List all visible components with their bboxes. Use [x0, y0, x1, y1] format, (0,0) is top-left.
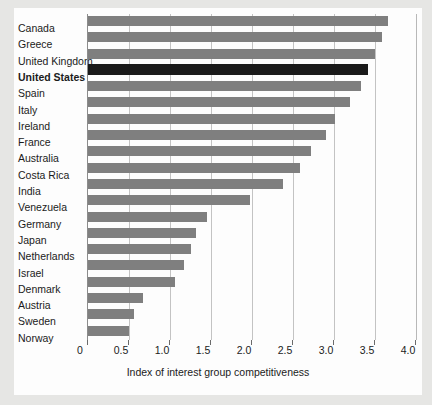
chart-figure: CanadaGreeceUnited KingdomUnited StatesS… [0, 0, 432, 405]
x-tick-label: 1.5 [196, 344, 211, 356]
category-label: Italy [14, 104, 80, 120]
category-label: United States [14, 71, 80, 87]
bar-row [88, 14, 416, 30]
category-label: India [14, 185, 80, 201]
bar [88, 146, 311, 156]
bar-row [88, 226, 416, 242]
bar [88, 32, 382, 42]
category-label: Israel [14, 267, 80, 283]
x-tick-mark [87, 340, 88, 345]
bar [88, 163, 300, 173]
bar-row [88, 210, 416, 226]
bar [88, 326, 129, 336]
bar-row [88, 63, 416, 79]
bar-row [88, 242, 416, 258]
x-axis: 00.51.01.52.02.53.03.54.0 [87, 340, 417, 362]
x-tick-label: 0 [77, 344, 83, 356]
chart-card: CanadaGreeceUnited KingdomUnited StatesS… [14, 8, 422, 395]
bar-row [88, 291, 416, 307]
bar [88, 244, 191, 254]
bar [88, 97, 350, 107]
category-label: Venezuela [14, 201, 80, 217]
bar [88, 16, 388, 26]
bar [88, 293, 143, 303]
category-label: Netherlands [14, 250, 80, 266]
bar [88, 228, 196, 238]
bar [88, 130, 326, 140]
category-label: Norway [14, 332, 80, 348]
bar-row [88, 128, 416, 144]
bar-rows [88, 14, 416, 340]
category-label: Costa Rica [14, 169, 80, 185]
x-tick-label: 1.0 [155, 344, 170, 356]
bar [88, 277, 175, 287]
category-label: Denmark [14, 283, 80, 299]
x-tick-label: 3.0 [319, 344, 334, 356]
category-label: Sweden [14, 315, 80, 331]
category-label: Australia [14, 152, 80, 168]
bar [88, 81, 361, 91]
bar [88, 64, 368, 75]
bar-row [88, 258, 416, 274]
category-label: Spain [14, 87, 80, 103]
bar [88, 195, 250, 205]
category-label: Ireland [14, 120, 80, 136]
bar [88, 179, 283, 189]
bar-row [88, 112, 416, 128]
category-axis-labels: CanadaGreeceUnited KingdomUnited StatesS… [14, 22, 84, 348]
x-tick-label: 2.5 [278, 344, 293, 356]
category-label: Canada [14, 22, 80, 38]
bar-row [88, 307, 416, 323]
bar [88, 309, 134, 319]
bar-row [88, 30, 416, 46]
category-label: Japan [14, 234, 80, 250]
category-label: Greece [14, 38, 80, 54]
bar-row [88, 161, 416, 177]
bar-row [88, 95, 416, 111]
bar [88, 49, 375, 59]
bar-row [88, 275, 416, 291]
bar [88, 260, 184, 270]
category-label: France [14, 136, 80, 152]
bar-row [88, 193, 416, 209]
x-tick-label: 3.5 [360, 344, 375, 356]
bar [88, 114, 335, 124]
category-label: Germany [14, 218, 80, 234]
x-tick-label: 4.0 [401, 344, 416, 356]
plot-area [87, 14, 417, 340]
x-tick-label: 0.5 [114, 344, 129, 356]
bar-row [88, 324, 416, 340]
x-axis-title: Index of interest group competitiveness [14, 366, 422, 378]
bar-row [88, 144, 416, 160]
bar-row [88, 47, 416, 63]
bar-row [88, 177, 416, 193]
bar-row [88, 79, 416, 95]
category-label: Austria [14, 299, 80, 315]
x-tick-label: 2.0 [237, 344, 252, 356]
bar [88, 212, 207, 222]
category-label: United Kingdom [14, 55, 80, 71]
